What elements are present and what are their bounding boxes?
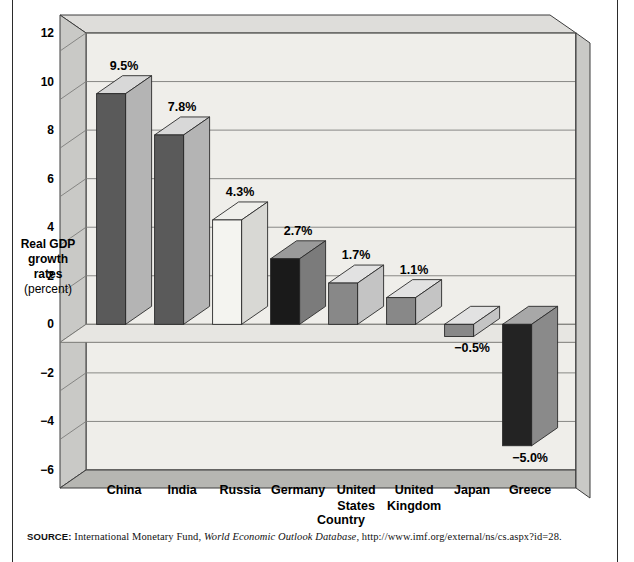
y-tick-label: −6 xyxy=(40,463,54,477)
x-category-label: India xyxy=(168,483,198,497)
bar-value-label: −0.5% xyxy=(454,341,490,355)
x-category-label: Russia xyxy=(220,483,262,497)
gdp-growth-bar-chart: 9.5%7.8%4.3%2.7%1.7%1.1%−0.5%−5.0%121086… xyxy=(0,0,634,562)
bar-china xyxy=(97,76,152,325)
y-axis-title-line: Real GDP xyxy=(21,237,76,251)
source-publication: World Economic Outlook Database xyxy=(204,531,356,542)
bar-front-face xyxy=(155,135,184,324)
bar-front-face xyxy=(445,324,474,336)
y-tick-label: 4 xyxy=(47,220,54,234)
y-tick-label: 10 xyxy=(41,75,55,89)
figure-page: 9.5%7.8%4.3%2.7%1.7%1.1%−0.5%−5.0%121086… xyxy=(0,0,634,562)
bar-germany xyxy=(271,241,326,325)
x-category-label: China xyxy=(107,483,143,497)
y-axis-title-line: (percent) xyxy=(24,282,72,296)
bar-value-label: 1.1% xyxy=(400,263,429,277)
y-axis-title-line: rates xyxy=(34,267,63,281)
bar-india xyxy=(155,117,210,324)
bar-front-face xyxy=(503,324,532,445)
bar-value-label: −5.0% xyxy=(512,451,548,465)
bar-front-face xyxy=(271,259,300,325)
source-text-part-1: International Monetary Fund, xyxy=(72,531,204,542)
bar-value-label: 9.5% xyxy=(110,59,139,73)
bar-value-label: 1.7% xyxy=(342,248,371,262)
y-tick-label: 6 xyxy=(47,172,54,186)
bar-russia xyxy=(213,202,268,324)
bar-greece xyxy=(503,306,558,445)
y-tick-label: −4 xyxy=(40,414,54,428)
chart-ceiling xyxy=(60,15,576,33)
y-tick-label: 0 xyxy=(47,317,54,331)
x-category-label: Greece xyxy=(509,483,551,497)
bar-front-face xyxy=(213,220,242,324)
x-category-label: Germany xyxy=(271,483,325,497)
bar-value-label: 7.8% xyxy=(168,100,197,114)
source-text-part-2: , http://www.imf.org/external/ns/cs.aspx… xyxy=(356,531,561,542)
y-tick-label: 12 xyxy=(41,26,55,40)
y-tick-label: −2 xyxy=(40,366,54,380)
x-category-label: United xyxy=(395,483,434,497)
y-axis-title-line: growth xyxy=(28,252,68,266)
bar-side-face xyxy=(126,76,152,325)
x-axis-title: Country xyxy=(317,513,365,527)
bar-side-face xyxy=(242,202,268,324)
x-category-label: Japan xyxy=(454,483,490,497)
figure-source-note: SOURCE: International Monetary Fund, Wor… xyxy=(27,531,587,542)
bar-side-face xyxy=(184,117,210,324)
bar-value-label: 4.3% xyxy=(226,185,255,199)
y-tick-label: 8 xyxy=(47,123,54,137)
x-category-label: Kingdom xyxy=(387,499,441,513)
chart-zero-plane xyxy=(60,324,576,342)
chart-right-wall xyxy=(576,33,590,498)
bar-front-face xyxy=(329,283,358,324)
bar-value-label: 2.7% xyxy=(284,224,313,238)
x-category-label: United xyxy=(337,483,376,497)
bar-side-face xyxy=(532,306,558,445)
x-category-label: States xyxy=(337,499,375,513)
bar-front-face xyxy=(97,94,126,325)
bar-front-face xyxy=(387,298,416,325)
source-label: SOURCE: xyxy=(27,531,72,542)
